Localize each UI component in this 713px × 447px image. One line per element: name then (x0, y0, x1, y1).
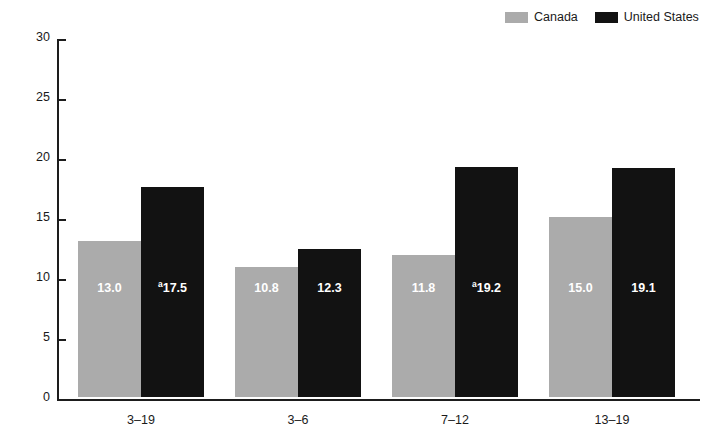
bar-value-label: 11.8 (392, 282, 455, 295)
y-axis-tick-mark (59, 39, 66, 41)
y-axis-tick-mark (59, 279, 66, 281)
bar-chart-figure: Canada United States Percent 05101520253… (0, 0, 713, 447)
bar-value-label: a19.2 (455, 282, 518, 295)
plot-area: 051015202530 13.0a17.510.812.311.8a19.21… (57, 39, 700, 399)
y-axis-tick-mark (59, 219, 66, 221)
x-axis-category-label: 7–12 (392, 414, 518, 427)
x-axis-category-label: 3–19 (78, 414, 204, 427)
x-axis-category-label: 3–6 (235, 414, 361, 427)
bar-united-states: a19.2 (455, 167, 518, 397)
y-axis-tick-mark (59, 99, 66, 101)
bar-value-label: 13.0 (78, 282, 141, 295)
y-axis-tick-label: 0 (43, 391, 50, 404)
legend-swatch-canada-icon (505, 12, 528, 23)
bar-united-states: 12.3 (298, 249, 361, 397)
y-axis-tick-mark (59, 399, 66, 401)
chart-legend: Canada United States (505, 9, 699, 25)
bar-value-label: 15.0 (549, 282, 612, 295)
bar-united-states: a17.5 (141, 187, 204, 397)
y-axis-tick-mark (59, 339, 66, 341)
bar-canada: 13.0 (78, 241, 141, 397)
bar-canada: 15.0 (549, 217, 612, 397)
bar-value-label: 12.3 (298, 282, 361, 295)
y-axis-tick-label: 20 (36, 151, 50, 164)
y-axis-tick-label: 15 (36, 211, 50, 224)
bar-canada: 10.8 (235, 267, 298, 397)
bar-value-footnote-mark: a (158, 279, 163, 289)
bar-value-footnote-mark: a (472, 279, 477, 289)
legend-label-canada: Canada (534, 11, 578, 24)
bar-value-label: a17.5 (141, 282, 204, 295)
legend-label-united-states: United States (624, 11, 699, 24)
x-axis-category-label: 13–19 (549, 414, 675, 427)
legend-item-united-states: United States (595, 11, 699, 24)
legend-swatch-united-states-icon (595, 12, 618, 23)
x-axis-line (57, 399, 700, 401)
y-axis-tick-label: 25 (36, 91, 50, 104)
bar-united-states: 19.1 (612, 168, 675, 397)
bar-value-label: 10.8 (235, 282, 298, 295)
bar-canada: 11.8 (392, 255, 455, 397)
y-axis-tick-label: 5 (43, 331, 50, 344)
y-axis-tick-label: 10 (36, 271, 50, 284)
y-axis-tick-mark (59, 159, 66, 161)
legend-item-canada: Canada (505, 11, 578, 24)
bar-value-label: 19.1 (612, 282, 675, 295)
y-axis-tick-label: 30 (36, 31, 50, 44)
